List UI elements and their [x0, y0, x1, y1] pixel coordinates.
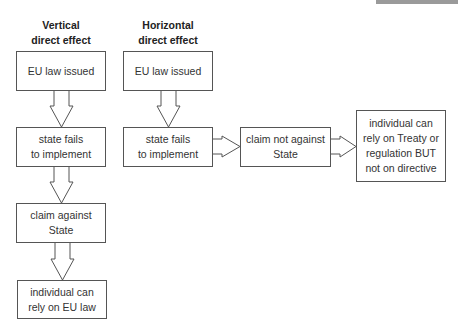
h-step-state-fails: state failsto implement — [123, 127, 213, 167]
box-label-line: rely on EU law — [28, 300, 96, 315]
box-label: EU law issued — [28, 64, 95, 79]
arrow-right-icon — [212, 136, 240, 157]
box-label-line: State — [246, 147, 325, 162]
box-label-line: to implement — [31, 147, 91, 162]
box-label: state failsto implement — [31, 132, 91, 162]
box-label: individual can rely on Treaty or regulat… — [363, 116, 439, 176]
box-label-line: individual can — [363, 116, 439, 131]
box-label-line: regulation BUT — [363, 146, 439, 161]
box-label-line: state fails — [138, 132, 198, 147]
box-label: state failsto implement — [138, 132, 198, 162]
arrow-down-icon — [51, 242, 74, 280]
box-label: individual canrely on EU law — [28, 285, 96, 315]
arrow-down-icon — [50, 90, 73, 127]
box-label-line: rely on Treaty or — [363, 131, 439, 146]
v-step-state-fails: state failsto implement — [16, 127, 106, 167]
box-label: EU law issued — [135, 64, 202, 79]
box-label-line: State — [30, 223, 91, 238]
v-step-eu-law-issued: EU law issued — [16, 51, 106, 91]
v-step-individual-can-rely: individual canrely on EU law — [17, 280, 107, 319]
box-label: claim not againstState — [246, 132, 325, 162]
h-step-individual-can-rely-treaty: individual can rely on Treaty or regulat… — [356, 110, 446, 182]
box-label-line: claim against — [30, 208, 91, 223]
h-step-eu-law-issued: EU law issued — [123, 51, 213, 91]
arrow-right-icon — [330, 136, 356, 157]
box-label-line: state fails — [31, 132, 91, 147]
arrow-down-icon — [157, 90, 180, 127]
arrow-down-icon — [50, 166, 73, 203]
v-step-claim-against-state: claim againstState — [16, 203, 106, 243]
box-label: claim againstState — [30, 208, 91, 238]
box-label-line: to implement — [138, 147, 198, 162]
box-label-line: not on directive — [363, 161, 439, 176]
box-label-line: claim not against — [246, 132, 325, 147]
box-label-line: individual can — [28, 285, 96, 300]
h-step-claim-not-against-state: claim not againstState — [240, 127, 331, 167]
